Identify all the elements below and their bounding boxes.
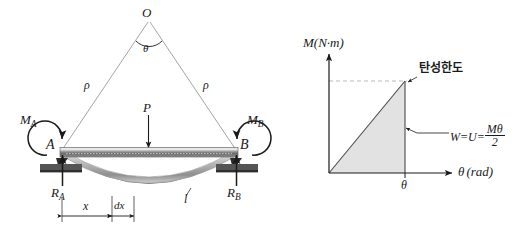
span-length-label: l (184, 193, 187, 205)
reaction-b-subscript: B (235, 192, 241, 202)
x-axis-units: (rad) (466, 164, 493, 179)
moment-label-MA: MA (20, 113, 37, 129)
reaction-b-symbol: R (227, 185, 235, 200)
apex-label-O: O (142, 6, 151, 19)
formula-numerator: Mθ (485, 123, 505, 136)
moment-b-symbol: M (247, 112, 258, 127)
radius-label-left: ρ (84, 79, 90, 91)
reaction-a-symbol: R (51, 185, 59, 200)
formula-denominator: 2 (485, 136, 505, 148)
x-axis-symbol: θ (458, 164, 464, 179)
support-label-A: A (46, 138, 55, 152)
formula-lhs: W=U= (450, 130, 485, 144)
radius-line-right (150, 22, 236, 150)
reaction-label-RA: RA (51, 186, 65, 202)
dimension-label-x: x (83, 200, 88, 212)
support-label-B: B (240, 138, 249, 152)
chart-xtick-label-theta: θ (401, 179, 407, 191)
work-energy-formula: W=U=Mθ2 (450, 123, 505, 148)
radius-label-right: ρ (203, 79, 209, 91)
apex-angle-label: θ (143, 43, 148, 54)
formula-fraction: Mθ2 (485, 123, 505, 148)
radius-line-left (62, 22, 148, 150)
y-axis-symbol: M (303, 35, 314, 50)
elastic-limit-label: 탄성한도 (419, 62, 463, 74)
load-label-P: P (143, 101, 151, 114)
moment-label-MB: MB (247, 113, 264, 129)
moment-b-subscript: B (258, 119, 264, 129)
reaction-a-subscript: A (59, 192, 65, 202)
formula-leader-line (406, 128, 449, 133)
y-axis-units: (N·m) (314, 35, 344, 50)
moment-a-symbol: M (20, 112, 31, 127)
apex-angle-arc (136, 41, 162, 47)
chart-x-axis-label: θ(rad) (458, 165, 493, 178)
undeformed-beam-bar (60, 148, 238, 158)
engineering-figure: O θ ρ ρ P A B MA MB RA RB l x dx M(N·m) … (0, 0, 513, 228)
elastic-limit-leader-line (408, 77, 417, 82)
reaction-label-RB: RB (227, 186, 241, 202)
dimension-label-dx: dx (114, 200, 124, 211)
moment-a-subscript: A (31, 119, 37, 129)
chart-y-axis-label: M(N·m) (303, 36, 344, 49)
